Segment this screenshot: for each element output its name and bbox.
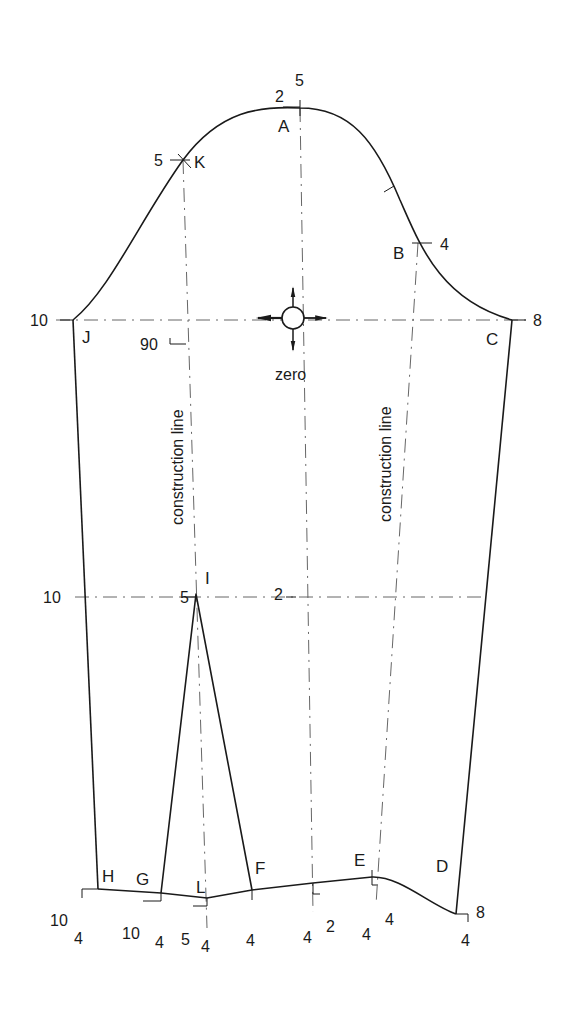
- measure-g-below: 4: [155, 934, 164, 951]
- zero-label: zero: [275, 366, 306, 383]
- measure-d-right: 8: [476, 904, 485, 921]
- measure-l-left: 5: [181, 931, 190, 948]
- measure-l-below: 4: [201, 938, 210, 955]
- point-label-f: F: [255, 859, 265, 878]
- zero-origin-symbol: [258, 288, 326, 350]
- measure-a-top: 5: [295, 72, 304, 89]
- left-construction-line: [183, 160, 207, 928]
- measure-k-left: 5: [154, 152, 163, 169]
- point-label-h: H: [102, 867, 114, 886]
- measure-center-right: 2: [326, 918, 335, 935]
- point-label-j: J: [82, 328, 91, 347]
- left-underarm-seam: [73, 320, 98, 889]
- measure-g-left: 10: [122, 925, 140, 942]
- measure-e-right: 4: [385, 911, 394, 928]
- measure-a-left: 2: [275, 88, 284, 105]
- right-construction-line: [376, 243, 418, 905]
- point-label-b: B: [393, 244, 404, 263]
- construction-guides: [56, 108, 530, 928]
- point-label-i: I: [205, 569, 210, 588]
- origin-circle-icon: [282, 307, 304, 329]
- hem-line: [98, 877, 456, 914]
- construction-line-right-label: construction line: [377, 406, 394, 522]
- notch-marks: [60, 100, 526, 922]
- measure-right-angle: 90: [140, 336, 158, 353]
- right-angle-mark: [170, 338, 186, 344]
- measure-f-below: 4: [246, 932, 255, 949]
- measure-c-right: 8: [533, 312, 542, 329]
- point-label-a: A: [278, 117, 290, 136]
- elbow-dart: [161, 594, 252, 893]
- measure-center-below: 4: [303, 929, 312, 946]
- right-underarm-seam: [456, 320, 512, 914]
- point-label-l: L: [196, 878, 205, 897]
- point-label-d: D: [436, 857, 448, 876]
- sleeve-outline: [73, 108, 512, 914]
- center-line: [300, 108, 313, 912]
- point-label-e: E: [354, 851, 365, 870]
- annotations: zero construction line construction line: [169, 366, 394, 525]
- measure-i-left: 5: [180, 589, 189, 606]
- measure-j-left: 10: [30, 312, 48, 329]
- point-label-k: K: [194, 153, 206, 172]
- construction-line-left-label: construction line: [169, 409, 186, 525]
- point-label-c: C: [486, 330, 498, 349]
- point-labels: A K B J C I H G L F E D: [82, 117, 498, 897]
- measure-h-left: 10: [50, 912, 68, 929]
- measure-b-right: 4: [440, 236, 449, 253]
- measure-elbow-left: 10: [43, 589, 61, 606]
- point-label-g: G: [136, 870, 149, 889]
- measure-e-below: 4: [362, 926, 371, 943]
- measure-h-below: 4: [74, 930, 83, 947]
- measure-d-below: 4: [461, 932, 470, 949]
- measure-center-elbow: 2: [274, 586, 283, 603]
- sleeve-pattern-diagram: A K B J C I H G L F E D 2 5 5 4 10 8 90 …: [0, 0, 586, 1017]
